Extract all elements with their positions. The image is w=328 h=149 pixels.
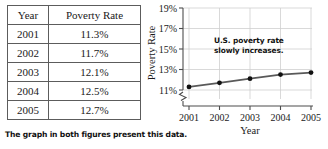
poverty-rate-line-chart: 19% 17% 15% 13% 11% 2001 2002 2003 2004 … (146, 2, 328, 138)
column-header-year: Year (8, 6, 49, 25)
cell-year: 2001 (8, 25, 49, 44)
cell-rate: 11.7% (49, 44, 141, 63)
x-tick-label: 2005 (301, 112, 321, 123)
y-tick-label: 19% (159, 3, 177, 14)
table-header-row: Year Poverty Rate (8, 6, 141, 25)
data-point-2002 (217, 80, 222, 85)
y-axis-ticks (179, 8, 183, 90)
cell-rate: 11.3% (49, 25, 141, 44)
cell-year: 2002 (8, 44, 49, 63)
x-axis-title: Year (240, 125, 260, 136)
table-row: 2002 11.7% (8, 44, 141, 63)
table-row: 2005 12.7% (8, 101, 141, 120)
data-point-2001 (187, 85, 192, 90)
x-tick-label: 2002 (210, 112, 230, 123)
cell-rate: 12.7% (49, 101, 141, 120)
annotation-line-1: U.S. poverty rate (214, 36, 284, 45)
y-axis-title: Poverty Rate (146, 25, 157, 80)
annotation-line-2: slowly increases. (214, 46, 284, 55)
figure-container: Year Poverty Rate 2001 11.3% 2002 11.7% … (0, 0, 328, 149)
table-row: 2001 11.3% (8, 25, 141, 44)
cell-rate: 12.1% (49, 63, 141, 82)
table-row: 2004 12.5% (8, 82, 141, 101)
data-point-2003 (248, 76, 253, 81)
cell-year: 2005 (8, 101, 49, 120)
table: Year Poverty Rate 2001 11.3% 2002 11.7% … (7, 5, 141, 120)
x-tick-label: 2004 (271, 112, 291, 123)
chart-svg: 19% 17% 15% 13% 11% 2001 2002 2003 2004 … (146, 2, 328, 138)
x-tick-label: 2003 (240, 112, 260, 123)
y-tick-label: 11% (159, 85, 177, 96)
y-tick-label: 13% (159, 64, 177, 75)
cell-rate: 12.5% (49, 82, 141, 101)
y-tick-label: 15% (159, 44, 177, 55)
table-row: 2003 12.1% (8, 63, 141, 82)
poverty-rate-table: Year Poverty Rate 2001 11.3% 2002 11.7% … (7, 5, 140, 115)
y-tick-label: 17% (159, 23, 177, 34)
column-header-poverty-rate: Poverty Rate (49, 6, 141, 25)
cell-year: 2004 (8, 82, 49, 101)
x-tick-label: 2001 (179, 112, 199, 123)
cell-year: 2003 (8, 63, 49, 82)
data-point-2004 (278, 72, 283, 77)
figure-caption: The graph in both figures present this d… (5, 130, 187, 139)
x-axis-ticks (189, 106, 311, 110)
data-point-2005 (309, 70, 314, 75)
